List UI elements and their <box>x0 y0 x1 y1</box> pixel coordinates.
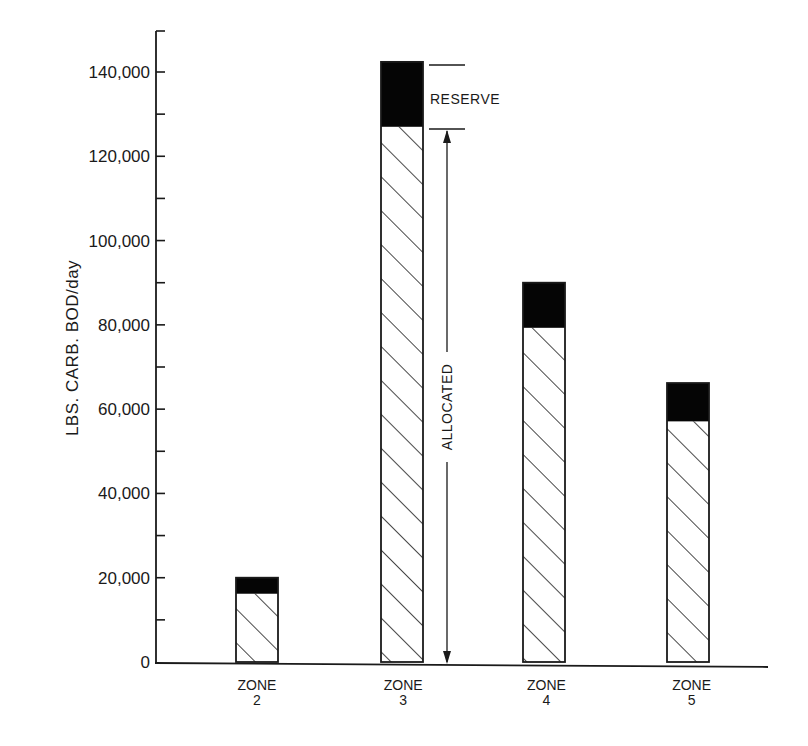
reserve-annotation: RESERVE <box>430 91 500 107</box>
y-tick-label: 0 <box>141 653 150 672</box>
category-labels: ZONE2ZONE3ZONE4ZONE5 <box>238 677 711 708</box>
category-label-line2: 3 <box>399 692 407 708</box>
reserve-segment <box>236 578 278 594</box>
reserve-segment <box>523 283 565 328</box>
category-label-line2: 5 <box>688 692 696 708</box>
bar-zone-2 <box>236 578 278 662</box>
y-ticks <box>156 72 165 620</box>
x-axis-line <box>155 663 768 667</box>
category-label-line2: 2 <box>253 692 261 708</box>
arrow-up-icon <box>443 130 451 143</box>
y-tick-label: 120,000 <box>89 147 150 166</box>
y-tick-label: 20,000 <box>98 569 150 588</box>
bar-chart: 020,00040,00060,00080,000100,000120,0001… <box>0 0 808 746</box>
category-label-line1: ZONE <box>672 677 711 693</box>
reserve-segment <box>381 62 423 127</box>
y-tick-label: 140,000 <box>89 63 150 82</box>
y-tick-label: 100,000 <box>89 232 150 251</box>
bar-zone-3 <box>381 62 423 662</box>
y-tick-label: 60,000 <box>98 400 150 419</box>
allocated-segment <box>523 328 565 662</box>
allocated-segment <box>381 127 423 662</box>
bars <box>236 62 709 662</box>
bar-zone-5 <box>667 383 709 662</box>
allocated-segment <box>236 594 278 662</box>
y-axis-label: LBS. CARB. BOD/day <box>63 260 82 436</box>
category-label-line1: ZONE <box>238 677 277 693</box>
bar-zone-4 <box>523 283 565 662</box>
zone3-annotations: RESERVE ALLOCATED <box>429 65 500 664</box>
category-label-line1: ZONE <box>527 677 566 693</box>
allocated-segment <box>667 421 709 662</box>
allocated-annotation: ALLOCATED <box>439 364 455 451</box>
y-tick-labels: 020,00040,00060,00080,000100,000120,0001… <box>89 63 150 672</box>
reserve-segment <box>667 383 709 421</box>
category-label-line1: ZONE <box>384 677 423 693</box>
arrow-down-icon <box>443 651 451 664</box>
category-label-line2: 4 <box>543 692 551 708</box>
y-tick-label: 40,000 <box>98 484 150 503</box>
y-axis: 020,00040,00060,00080,000100,000120,0001… <box>89 31 165 672</box>
y-tick-label: 80,000 <box>98 316 150 335</box>
